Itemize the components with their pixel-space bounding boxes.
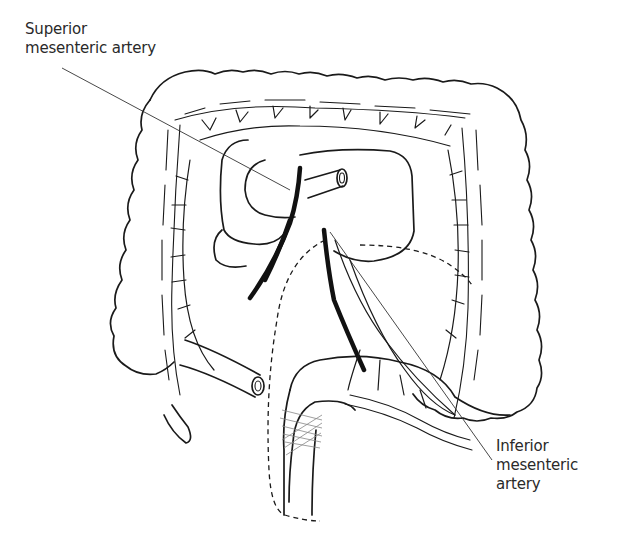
- label-line: mesenteric: [496, 456, 578, 475]
- main-arteries: [250, 168, 364, 370]
- inferior-mesenteric-artery-label: Inferior mesenteric artery: [496, 437, 578, 494]
- diagram-canvas: Superior mesenteric artery Inferior mese…: [0, 0, 618, 534]
- label-line: Superior: [25, 20, 156, 39]
- sma-cut-vessel: [305, 169, 347, 198]
- sma-leader-line: [62, 68, 290, 190]
- superior-mesenteric-artery-label: Superior mesenteric artery: [25, 20, 156, 58]
- appendix: [164, 405, 191, 443]
- sigmoid-rectum: [280, 356, 510, 515]
- ileum-cut-vessel: [180, 340, 264, 397]
- label-line: mesenteric artery: [25, 39, 156, 58]
- label-line: Inferior: [496, 437, 578, 456]
- label-line: artery: [496, 475, 578, 494]
- small-bowel-loops: [214, 140, 414, 267]
